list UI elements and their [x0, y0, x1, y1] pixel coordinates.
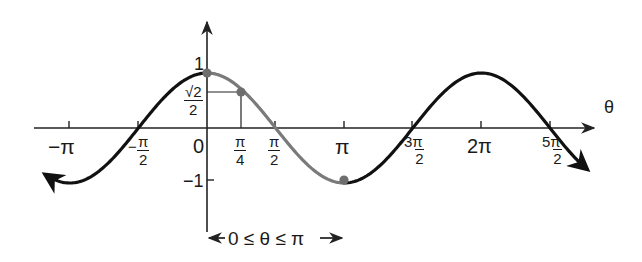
x-label-three-half-pi: 3π 2	[403, 134, 424, 166]
pi-over-4-guides	[207, 92, 241, 128]
x-label-pi: π	[335, 136, 350, 157]
theta-axis-label: θ	[604, 98, 614, 116]
x-label-neg-pi: −π	[48, 136, 75, 157]
y-label-one: 1	[194, 55, 204, 73]
x-label-quarter-pi: π 4	[234, 134, 246, 167]
y-label-sqrt2-over-2: √2 2	[184, 84, 203, 117]
x-label-zero: 0	[193, 136, 204, 156]
x-label-five-half-pi: 5π 2	[541, 134, 562, 166]
y-label-neg-one: −1	[183, 172, 204, 190]
x-label-two-pi: 2π	[467, 136, 492, 156]
cosine-graph	[0, 0, 642, 262]
interval-annotation: 0 ≤ θ ≤ π	[228, 229, 304, 248]
x-label-half-pi: π 2	[268, 134, 280, 167]
point-pi-neg1	[339, 175, 348, 184]
point-pi4-sqrt2	[236, 87, 245, 96]
x-label-neg-half-pi: − π 2	[137, 134, 149, 167]
